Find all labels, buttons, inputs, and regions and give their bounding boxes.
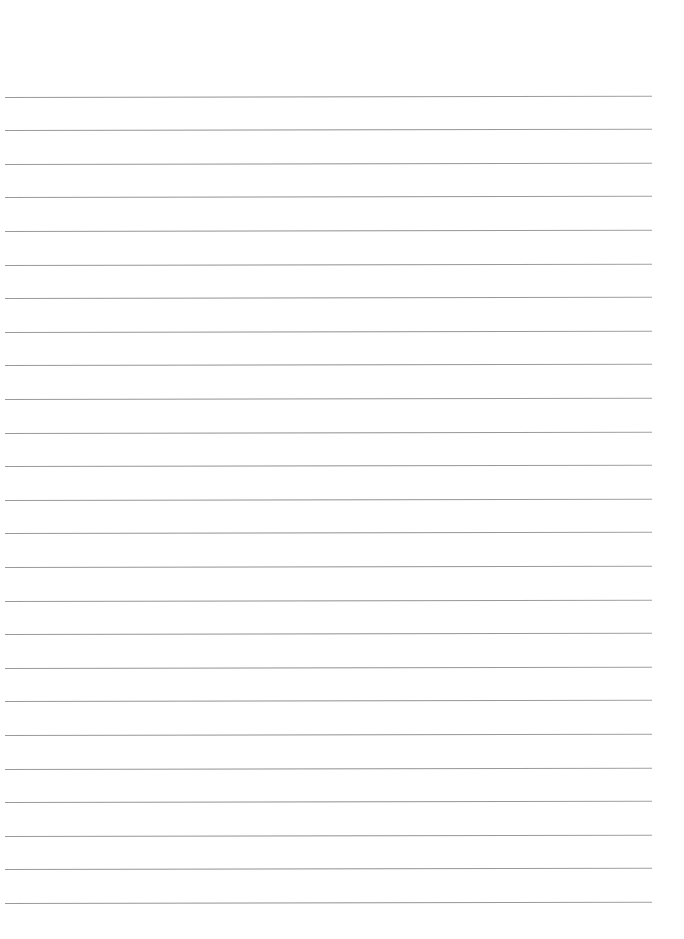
ruled-line [5,667,652,669]
ruled-line [5,432,652,434]
ruled-line [5,868,652,870]
ruled-line [5,801,652,803]
lined-paper-page [0,0,684,939]
ruled-line [5,331,652,333]
ruled-line [5,633,652,635]
ruled-line [5,902,652,904]
ruled-line [5,600,652,602]
ruled-line [5,196,652,198]
ruled-line [5,297,652,299]
ruled-line [5,532,652,534]
ruled-line [5,768,652,770]
ruled-line [5,566,652,568]
ruled-line [5,230,652,232]
ruled-line [5,398,652,400]
ruled-line [5,163,652,165]
ruled-line [5,835,652,837]
ruled-line [5,465,652,467]
ruled-line [5,264,652,266]
ruled-line [5,700,652,702]
ruled-line [5,129,652,131]
ruled-line [5,499,652,501]
ruled-line [5,96,652,98]
ruled-line [5,364,652,366]
ruled-line [5,734,652,736]
